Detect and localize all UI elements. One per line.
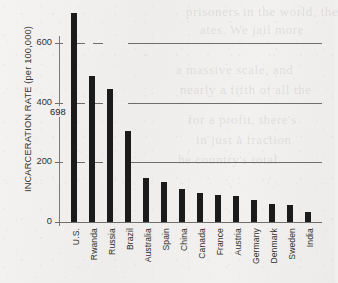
x-axis-label-us: U.S. — [71, 228, 81, 245]
y-axis-tick-label-200: 200 — [12, 156, 52, 166]
bar-russia[interactable] — [107, 89, 113, 222]
gridline-600 — [72, 43, 322, 44]
x-axis-label-sweden: Sweden — [287, 228, 297, 260]
y-axis-tick-label-400: 400 — [12, 97, 52, 107]
bar-austria[interactable] — [233, 196, 239, 222]
gridline-dash-segment — [72, 162, 128, 163]
bar-rwanda[interactable] — [89, 76, 95, 222]
x-axis-label-india: India — [305, 228, 315, 247]
bar-australia[interactable] — [143, 178, 149, 222]
y-axis-tick-200 — [55, 162, 63, 163]
bar-spain[interactable] — [161, 182, 167, 222]
y-axis-tick-label-600: 600 — [12, 37, 52, 47]
y-axis-tick-label-0: 0 — [12, 216, 52, 226]
bar-germany[interactable] — [251, 200, 257, 222]
y-axis-tick-400 — [55, 103, 63, 104]
gridline-dash-segment — [72, 43, 128, 44]
bar-sweden[interactable] — [287, 205, 293, 222]
x-axis-label-rwanda: Rwanda — [89, 228, 99, 260]
x-axis-label-france: France — [215, 228, 225, 255]
x-axis-label-spain: Spain — [161, 228, 171, 250]
bar-france[interactable] — [215, 195, 221, 222]
bar-us[interactable] — [71, 13, 77, 222]
x-axis-label-russia: Russia — [107, 228, 117, 255]
x-axis-label-canada: Canada — [197, 228, 207, 259]
x-axis-label-brazil: Brazil — [125, 228, 135, 250]
x-axis-label-germany: Germany — [251, 228, 261, 264]
bar-denmark[interactable] — [269, 204, 275, 222]
y-axis-line — [59, 36, 60, 226]
x-axis-label-denmark: Denmark — [269, 228, 279, 264]
x-axis-label-australia: Australia — [143, 228, 153, 262]
bar-china[interactable] — [179, 189, 185, 222]
x-axis-label-austria: Austria — [233, 228, 243, 255]
gridline-dash-segment — [72, 103, 128, 104]
x-axis-label-china: China — [179, 228, 189, 251]
y-axis-tick-600 — [55, 43, 63, 44]
bar-india[interactable] — [305, 212, 311, 222]
x-axis-line — [59, 222, 322, 223]
bar-brazil[interactable] — [125, 131, 131, 222]
data-label-us: 698 — [49, 106, 67, 117]
bar-canada[interactable] — [197, 193, 203, 222]
